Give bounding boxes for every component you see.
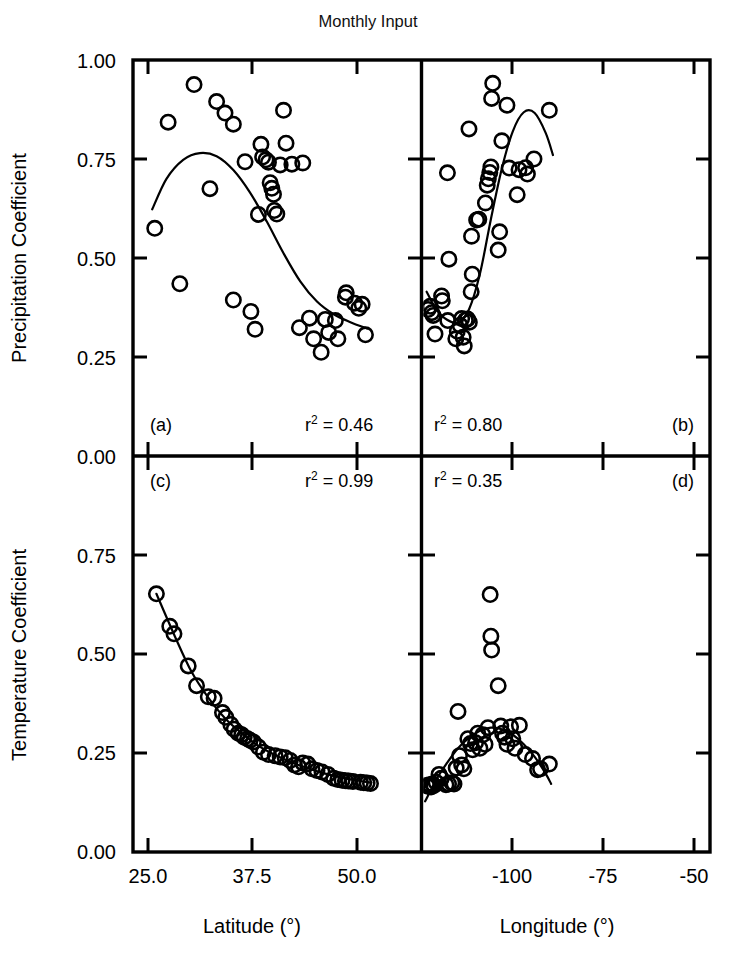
r2-annotation-a: r2 = 0.46 (305, 413, 373, 435)
y-tick-label: 0.50 (77, 643, 116, 665)
x-tick-label: -100 (492, 865, 532, 887)
svg-text:r2 = 0.80: r2 = 0.80 (434, 413, 502, 435)
data-point (500, 98, 514, 112)
data-point (512, 718, 526, 732)
svg-text:r2 = 0.35: r2 = 0.35 (434, 469, 502, 491)
data-point (244, 304, 258, 318)
r2-value-c: 0.99 (338, 471, 373, 491)
data-point (483, 587, 497, 601)
r2-annotation-d: r2 = 0.35 (434, 469, 502, 491)
data-point (465, 267, 479, 281)
svg-text:r2 = 0.46: r2 = 0.46 (305, 413, 373, 435)
r2-annotation-b: r2 = 0.80 (434, 413, 502, 435)
data-point (451, 704, 465, 718)
data-point (542, 103, 556, 117)
data-point (442, 252, 456, 266)
y-tick-label: 0.50 (77, 248, 116, 270)
data-point (314, 345, 328, 359)
x-tick-label: -50 (680, 865, 709, 887)
panel-label-d: (d) (672, 471, 694, 491)
data-point (486, 76, 500, 90)
r2-value-d: 0.35 (467, 471, 502, 491)
x-axis-title-latitude: Latitude (°) (203, 915, 301, 937)
data-point (491, 243, 505, 257)
scatter-figure: Monthly Input Precipitation Coefficient … (0, 0, 737, 955)
data-point (226, 117, 240, 131)
fit-curve (152, 153, 367, 329)
figure-root: Monthly Input Precipitation Coefficient … (0, 0, 737, 955)
x-tick-label: -75 (589, 865, 618, 887)
x-axis-tick-labels-latitude: 25.0 37.5 50.0 (129, 865, 377, 887)
data-point (510, 187, 524, 201)
r2-annotation-c: r2 = 0.99 (305, 469, 373, 491)
panel-label-c: (c) (150, 471, 171, 491)
panel-b-data (421, 76, 557, 353)
panel-c-data (149, 587, 377, 791)
data-point (495, 134, 509, 148)
x-axis-title-longitude: Longitude (°) (500, 915, 615, 937)
y-tick-label: 0.25 (77, 347, 116, 369)
data-point (491, 678, 505, 692)
y-tick-label: 0.75 (77, 545, 116, 567)
y-axis-title-precipitation: Precipitation Coefficient (8, 153, 30, 363)
panel-label-a: (a) (150, 415, 172, 435)
y-axis-tick-labels-top: 1.00 0.75 0.50 0.25 0.00 (77, 50, 116, 468)
data-point (173, 277, 187, 291)
data-point (302, 311, 316, 325)
x-tick-label: 50.0 (338, 865, 377, 887)
figure-title: Monthly Input (318, 12, 417, 30)
panel-a-data (148, 77, 373, 359)
y-tick-label: 0.75 (77, 149, 116, 171)
panel-d-data (419, 587, 556, 801)
data-point (238, 155, 252, 169)
data-point (187, 77, 201, 91)
data-point (492, 225, 506, 239)
y-axis-tick-labels-bottom: 0.75 0.50 0.25 0.00 (77, 545, 116, 863)
data-point (358, 328, 372, 342)
data-point (440, 166, 454, 180)
y-axis-title-temperature: Temperature Coefficient (8, 549, 30, 761)
data-point (148, 221, 162, 235)
data-point (161, 115, 175, 129)
data-point (248, 322, 262, 336)
y-tick-label: 0.00 (77, 841, 116, 863)
panel-label-b: (b) (672, 415, 694, 435)
y-tick-label: 0.25 (77, 742, 116, 764)
data-point (464, 229, 478, 243)
r2-value-b: 0.80 (467, 415, 502, 435)
data-point (484, 643, 498, 657)
data-point (279, 136, 293, 150)
x-tick-label: 25.0 (129, 865, 168, 887)
data-point (484, 91, 498, 105)
data-point (484, 629, 498, 643)
data-point (203, 182, 217, 196)
data-point (478, 196, 492, 210)
data-point (306, 332, 320, 346)
r2-value-a: 0.46 (338, 415, 373, 435)
y-tick-label: 1.00 (77, 50, 116, 72)
y-tick-label: 0.00 (77, 446, 116, 468)
x-tick-label: 37.5 (233, 865, 272, 887)
data-point (428, 327, 442, 341)
svg-text:r2 = 0.99: r2 = 0.99 (305, 469, 373, 491)
data-point (226, 293, 240, 307)
data-point (527, 152, 541, 166)
x-axis-tick-labels-longitude: -100 -75 -50 (492, 865, 708, 887)
data-point (462, 122, 476, 136)
data-point (276, 103, 290, 117)
